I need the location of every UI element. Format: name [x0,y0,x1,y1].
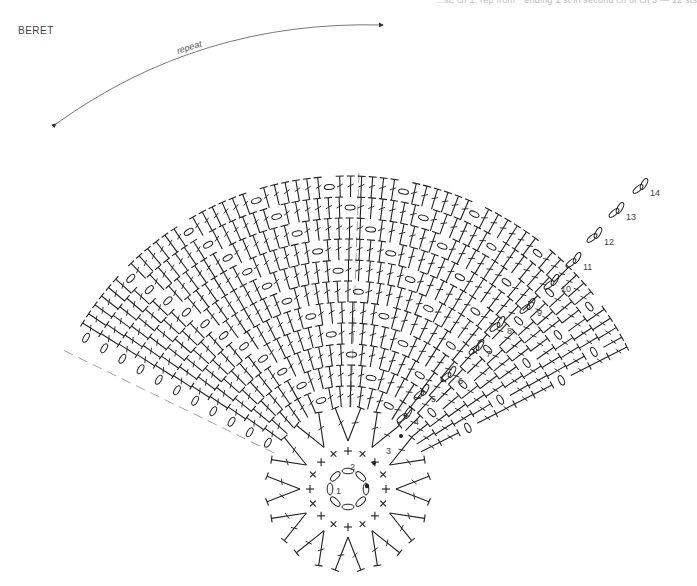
row-number-labels: 1234567891011121314 [336,188,660,496]
row-label-4: 4 [414,417,419,427]
row-label-14: 14 [650,188,660,198]
row-label-6: 6 [458,376,463,386]
row-label-5: 5 [431,394,436,404]
row-label-8: 8 [507,326,512,336]
row-label-10: 10 [561,284,571,294]
row-label-12: 12 [604,237,614,247]
row-label-2: 2 [350,462,355,472]
stitch-symbols [80,176,649,571]
row-label-3: 3 [386,446,391,456]
row-label-1: 1 [336,486,341,496]
row-label-13: 13 [626,212,636,222]
row-label-7: 7 [486,349,491,359]
row-label-9: 9 [537,308,542,318]
repeat-label: repeat [176,38,204,56]
repeat-arrow: repeat [56,25,383,124]
row-label-11: 11 [583,262,592,272]
